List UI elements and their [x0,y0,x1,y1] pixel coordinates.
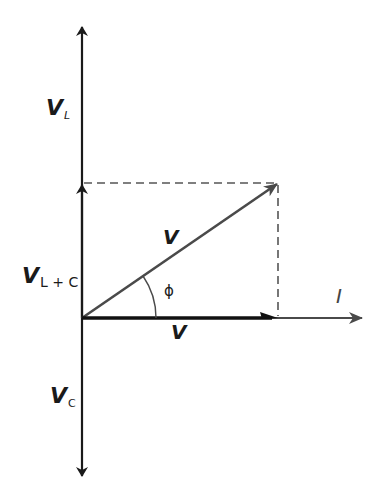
label-v-lc: VL + C [22,263,78,290]
label-v-l-sub: L [64,109,70,122]
label-phase-angle: ϕ [164,282,174,300]
v-resistive-arrowhead [260,312,278,319]
label-current: I [336,284,342,308]
label-v-l-main: V [46,95,63,120]
label-v-c: VC [50,383,76,410]
label-v-c-sub: C [68,397,76,410]
label-v-lc-main: V [22,263,39,288]
label-v-l: VL [46,95,70,122]
label-v-resultant: V [163,225,178,249]
v-resultant-vector [82,184,277,318]
phasor-diagram-canvas [0,0,389,501]
label-v-c-main: V [50,383,67,408]
phase-angle-arc [143,276,156,318]
label-v-resistive: V [171,320,186,344]
label-v-lc-sub: L + C [40,274,78,290]
